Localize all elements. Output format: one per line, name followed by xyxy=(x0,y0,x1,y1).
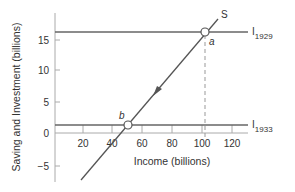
i1933-label: I1933 xyxy=(252,119,273,134)
i1929-label: I1929 xyxy=(252,26,273,41)
svg-text:80: 80 xyxy=(166,138,178,149)
svg-text:60: 60 xyxy=(136,138,148,149)
point-b-label: b xyxy=(119,110,125,121)
y-ticks xyxy=(55,40,60,166)
svg-text:100: 100 xyxy=(194,138,211,149)
point-a-label: a xyxy=(209,36,215,47)
y-axis-title: Saving and Investment (billions) xyxy=(10,23,22,172)
x-axis-title: Income (billions) xyxy=(134,155,210,167)
s-label: S xyxy=(221,9,228,20)
svg-text:120: 120 xyxy=(224,138,241,149)
svg-text:0: 0 xyxy=(43,128,49,139)
x-ticks xyxy=(83,125,232,133)
x-tick-labels: 20 40 60 80 100 120 xyxy=(77,138,240,149)
svg-text:−5: −5 xyxy=(38,161,50,172)
point-a xyxy=(201,28,209,36)
arrow-down-left-icon xyxy=(153,86,162,96)
svg-text:15: 15 xyxy=(38,35,50,46)
chart-canvas: 15 10 5 0 −5 20 40 60 80 100 120 Income … xyxy=(0,0,295,192)
svg-text:20: 20 xyxy=(77,138,89,149)
y-tick-labels: 15 10 5 0 −5 xyxy=(38,35,50,172)
svg-text:10: 10 xyxy=(38,65,50,76)
point-b xyxy=(124,121,132,129)
svg-text:5: 5 xyxy=(43,97,49,108)
